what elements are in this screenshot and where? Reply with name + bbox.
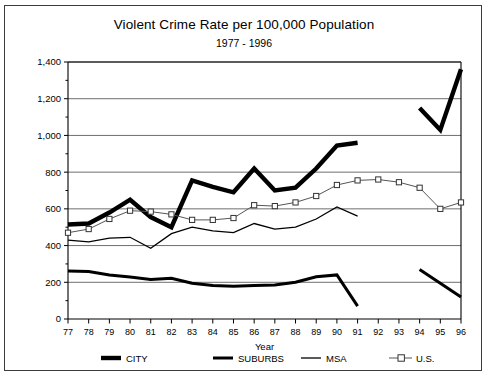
legend-item-city[interactable]: CITY	[101, 353, 148, 364]
gridlines	[68, 62, 461, 282]
x-axis-labels: 7778798081828384858687888990919293949596	[63, 327, 466, 337]
x-tick-label: 88	[291, 327, 301, 337]
series-marker-us	[210, 217, 215, 222]
x-tick-label: 78	[84, 327, 94, 337]
axis-lines	[68, 62, 461, 319]
y-tick-label: 0	[56, 313, 61, 324]
series-marker-us	[314, 193, 319, 198]
x-tick-label: 83	[187, 327, 197, 337]
x-tick-label: 81	[146, 327, 156, 337]
series-marker-us	[396, 180, 401, 185]
series-marker-us	[65, 230, 70, 235]
x-tick-label: 87	[270, 327, 280, 337]
legend-label: U.S.	[416, 353, 434, 364]
x-tick-label: 96	[456, 327, 466, 337]
x-tick-label: 95	[435, 327, 445, 337]
y-tick-label: 800	[45, 167, 61, 178]
y-axis-ticks	[64, 62, 68, 319]
series-marker-us	[417, 185, 422, 190]
series-line-city	[420, 69, 461, 130]
series-marker-us	[272, 204, 277, 209]
x-tick-label: 94	[415, 327, 425, 337]
y-tick-label: 200	[45, 277, 61, 288]
x-tick-label: 82	[166, 327, 176, 337]
series-marker-us	[169, 212, 174, 217]
x-tick-label: 89	[311, 327, 321, 337]
legend-item-us[interactable]: U.S.	[389, 353, 434, 364]
legend-item-suburbs[interactable]: SUBURBS	[213, 353, 284, 364]
series-marker-us	[334, 182, 339, 187]
series-marker-us	[355, 178, 360, 183]
x-axis-ticks	[68, 319, 461, 324]
chart-svg: 02004006008001,0001,2001,400 77787980818…	[5, 6, 483, 372]
legend-item-msa[interactable]: MSA	[301, 353, 347, 364]
plot-area: 02004006008001,0001,2001,400 77787980818…	[5, 6, 483, 372]
series-marker-us	[252, 203, 257, 208]
chart-page: Violent Crime Rate per 100,000 Populatio…	[0, 0, 490, 383]
x-tick-label: 90	[332, 327, 342, 337]
series-marker-us	[86, 226, 91, 231]
series-line-us	[68, 180, 461, 233]
y-tick-label: 1,000	[37, 130, 61, 141]
legend-label: CITY	[126, 353, 148, 364]
y-tick-label: 600	[45, 203, 61, 214]
series-marker-us	[458, 200, 463, 205]
chart-legend: CITYSUBURBSMSAU.S.	[101, 353, 434, 364]
legend-label: SUBURBS	[238, 353, 284, 364]
y-tick-label: 400	[45, 240, 61, 251]
series-line-city	[68, 143, 358, 227]
series-marker-us	[376, 177, 381, 182]
y-axis-labels: 02004006008001,0001,2001,400	[37, 56, 61, 324]
series-line-suburbs	[420, 269, 461, 297]
x-tick-label: 85	[228, 327, 238, 337]
x-tick-label: 84	[208, 327, 218, 337]
legend-label: MSA	[326, 353, 347, 364]
x-axis-title: Year	[255, 341, 274, 352]
series-marker-us	[127, 208, 132, 213]
x-tick-label: 77	[63, 327, 73, 337]
series-marker-us	[438, 206, 443, 211]
x-tick-label: 92	[373, 327, 383, 337]
series-marker-us	[190, 217, 195, 222]
x-tick-label: 79	[104, 327, 114, 337]
legend-swatch-us-marker	[398, 355, 404, 361]
series-marker-us	[293, 200, 298, 205]
y-tick-label: 1,400	[37, 56, 61, 67]
data-series	[65, 69, 463, 306]
x-tick-label: 86	[249, 327, 259, 337]
chart-frame: Violent Crime Rate per 100,000 Populatio…	[4, 5, 482, 371]
series-marker-us	[231, 215, 236, 220]
y-tick-label: 1,200	[37, 93, 61, 104]
series-marker-us	[107, 216, 112, 221]
series-line-suburbs	[68, 271, 358, 306]
x-tick-label: 91	[353, 327, 363, 337]
page-footnote	[5, 374, 305, 383]
x-axis-title-text: Year	[255, 341, 274, 352]
x-tick-label: 93	[394, 327, 404, 337]
x-tick-label: 80	[125, 327, 135, 337]
series-marker-us	[148, 209, 153, 214]
